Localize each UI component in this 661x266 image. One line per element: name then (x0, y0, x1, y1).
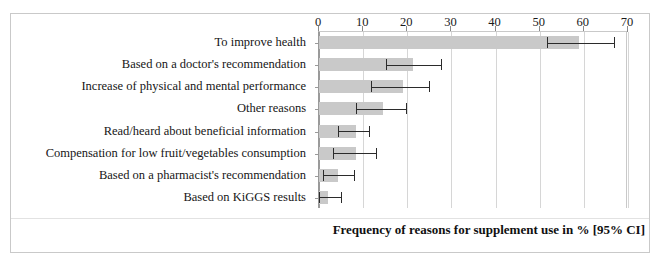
category-label: Read/heard about beneficial information (104, 120, 306, 142)
error-bar-cap-low (547, 37, 548, 48)
y-tick-mark (315, 109, 319, 110)
error-bar-cap-high (441, 59, 442, 70)
error-bar-line (333, 153, 376, 154)
error-bar-cap-low (319, 192, 320, 203)
error-bar-line (371, 87, 429, 88)
y-tick-mark (315, 43, 319, 44)
category-label: Other reasons (237, 97, 306, 119)
error-bar-line (323, 175, 354, 176)
y-tick-mark (315, 132, 319, 133)
bar-row (319, 121, 626, 143)
bar-row (319, 76, 626, 98)
bar-row (319, 143, 626, 165)
error-bar-cap-low (386, 59, 387, 70)
chart-caption: Frequency of reasons for supplement use … (0, 222, 645, 238)
error-bar-cap-high (354, 170, 355, 181)
error-bar-cap-low (333, 148, 334, 159)
error-bar-line (386, 65, 441, 66)
error-bar-cap-low (323, 170, 324, 181)
error-bar-line (547, 43, 614, 44)
caption-divider (11, 218, 649, 219)
bar-row (319, 98, 626, 120)
error-bar-line (338, 131, 369, 132)
error-bar-cap-low (371, 81, 372, 92)
category-label: Based on a pharmacist's recommendation (99, 164, 306, 186)
category-label: Based on KiGGS results (183, 186, 306, 208)
error-bar-line (319, 197, 341, 198)
gridline (628, 32, 629, 208)
bar-row (319, 187, 626, 209)
y-tick-mark (315, 65, 319, 66)
category-axis-labels: To improve healthBased on a doctor's rec… (0, 31, 314, 208)
error-bar-cap-high (376, 148, 377, 159)
y-tick-mark (315, 154, 319, 155)
bar-row (319, 165, 626, 187)
y-tick-mark (315, 198, 319, 199)
y-tick-mark (315, 176, 319, 177)
chart-figure: 010203040506070 To improve healthBased o… (0, 0, 661, 266)
category-label: Compensation for low fruit/vegetables co… (46, 142, 306, 164)
error-bar-cap-high (341, 192, 342, 203)
error-bar-line (356, 109, 406, 110)
y-tick-mark (315, 87, 319, 88)
error-bar-cap-high (369, 126, 370, 137)
error-bar-cap-high (614, 37, 615, 48)
error-bar-cap-low (338, 126, 339, 137)
bar-row (319, 54, 626, 76)
bar-row (319, 32, 626, 54)
error-bar-cap-high (406, 103, 407, 114)
bar (319, 36, 579, 49)
category-label: Increase of physical and mental performa… (81, 75, 306, 97)
error-bar-cap-low (356, 103, 357, 114)
category-label: To improve health (215, 31, 306, 53)
error-bar-cap-high (429, 81, 430, 92)
category-label: Based on a doctor's recommendation (122, 53, 306, 75)
plot-area (318, 31, 627, 208)
